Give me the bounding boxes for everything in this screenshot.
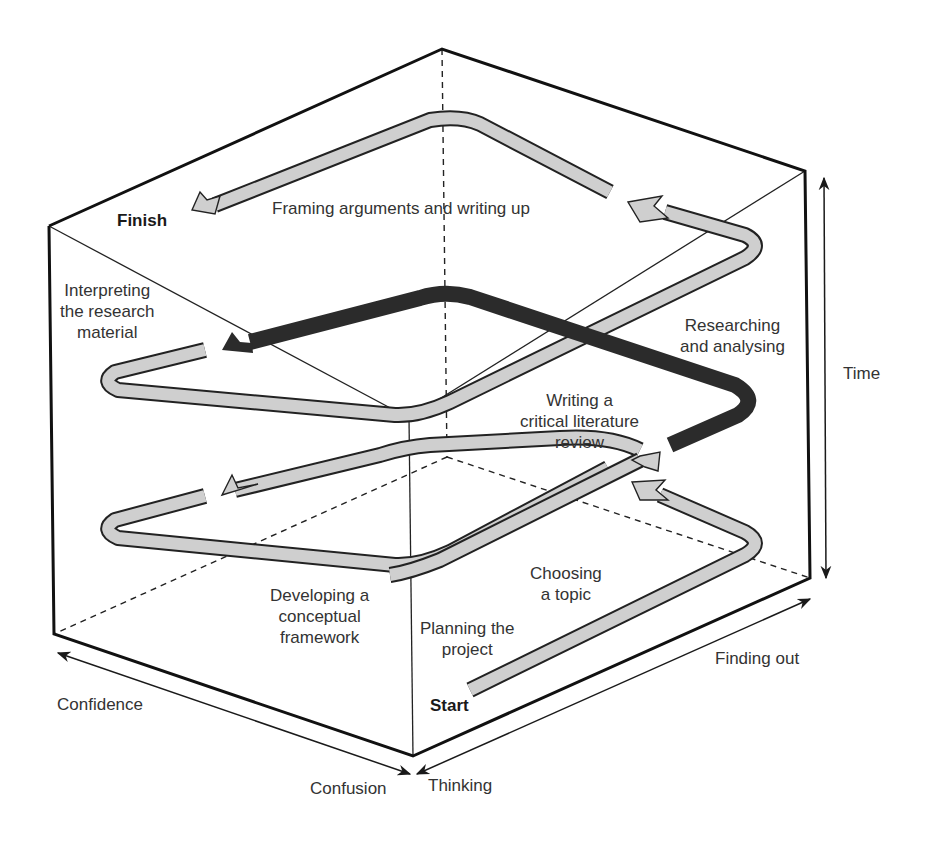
cube-inner-edges: [49, 171, 805, 756]
axis-confusion-label: Confusion: [310, 778, 387, 799]
stage-planning-label: Planning the project: [420, 618, 515, 660]
arrowhead-finish: [192, 192, 220, 214]
arrowhead-researching: [628, 196, 668, 222]
axis-finding-out-label: Finding out: [715, 648, 799, 669]
path-literature-review: [390, 452, 660, 575]
time-axis-arrow: [824, 178, 826, 578]
stage-framing-label: Framing arguments and writing up: [272, 198, 530, 219]
stage-interpreting-label: Interpreting the research material: [60, 280, 155, 343]
axis-confidence-label: Confidence: [57, 694, 143, 715]
path-loop-middle: [108, 196, 755, 415]
start-label: Start: [430, 695, 469, 716]
axis-thinking-label: Thinking: [428, 775, 492, 796]
stage-researching-label: Researching and analysing: [680, 315, 785, 357]
stage-choosing-label: Choosing a topic: [530, 563, 602, 605]
finish-label: Finish: [117, 210, 167, 231]
stage-conceptual-label: Developing a conceptual framework: [270, 585, 369, 648]
path-dark-researching: [222, 294, 748, 445]
stage-literature-label: Writing a critical literature review: [520, 390, 639, 453]
axis-time-label: Time: [843, 363, 880, 384]
